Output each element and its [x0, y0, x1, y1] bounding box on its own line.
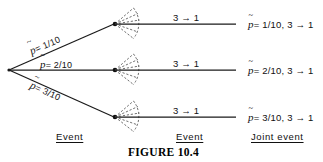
joint-event-label-1: p= 1/10, 3 → 1 — [248, 18, 314, 30]
joint-event-value-1: = 1/10, 3 → 1 — [254, 19, 314, 30]
figure-caption: FIGURE 10.4 — [128, 146, 199, 158]
transition-label-3: 3 → 1 — [173, 105, 199, 116]
p-tilde-symbol: p — [248, 18, 254, 30]
joint-event-value-2: = 2/10, 3 → 1 — [254, 65, 314, 76]
joint-event-label-3: p= 3/10, 3 → 1 — [248, 111, 314, 123]
column-header-event-left: Event — [56, 131, 83, 142]
branch-probability-value-2: = 2/10 — [46, 60, 72, 70]
p-tilde-symbol: p — [40, 58, 46, 70]
joint-event-value-3: = 3/10, 3 → 1 — [254, 112, 314, 123]
joint-event-label-2: p= 2/10, 3 → 1 — [248, 64, 314, 76]
column-header-event-middle: Event — [176, 131, 203, 142]
transition-label-1: 3 → 1 — [173, 12, 199, 23]
p-tilde-symbol: p — [248, 64, 254, 76]
figure-10-4: p= 1/10 p= 2/10 p= 3/10 3 → 1 3 → 1 3 → … — [0, 0, 323, 162]
p-tilde-symbol: p — [248, 111, 254, 123]
column-header-joint-event: Joint event — [251, 131, 304, 142]
branch-probability-label-2: p= 2/10 — [40, 58, 72, 70]
transition-label-2: 3 → 1 — [173, 58, 199, 69]
